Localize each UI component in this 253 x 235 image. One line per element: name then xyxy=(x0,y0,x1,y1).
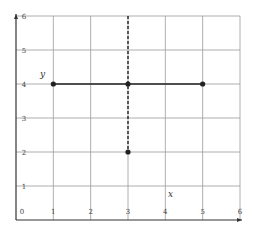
data-point xyxy=(125,81,130,86)
x-tick-label: 2 xyxy=(88,208,92,216)
x-tick-label: 3 xyxy=(126,208,130,216)
data-point xyxy=(51,81,56,86)
y-tick-label: 6 xyxy=(22,13,27,21)
x-tick-label: 1 xyxy=(51,208,55,216)
y-axis-label: y xyxy=(39,69,46,79)
x-tick-label: 5 xyxy=(200,208,204,216)
y-tick-label: 2 xyxy=(22,149,26,157)
chart-canvas: 0123456123456 x y xyxy=(0,0,253,235)
x-tick-label: 6 xyxy=(238,208,243,216)
data-point xyxy=(125,149,130,154)
x-tick-label: 0 xyxy=(20,208,24,216)
y-axis-arrow-icon xyxy=(14,14,18,19)
data-point xyxy=(200,81,205,86)
x-axis-arrow-icon xyxy=(237,218,242,222)
x-axis-label: x xyxy=(168,189,173,199)
y-tick-label: 1 xyxy=(22,183,26,191)
y-tick-label: 5 xyxy=(22,47,26,55)
x-tick-label: 4 xyxy=(163,208,168,216)
y-tick-label: 4 xyxy=(22,81,27,89)
y-tick-label: 3 xyxy=(22,115,26,123)
